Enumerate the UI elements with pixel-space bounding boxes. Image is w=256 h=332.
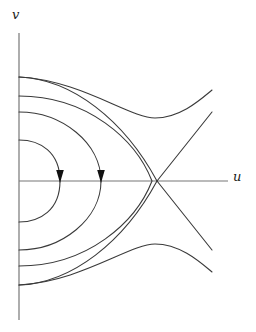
u-axis-label: u bbox=[233, 170, 241, 183]
trajectory-outer-orbit-lower bbox=[19, 244, 212, 285]
trajectory-separatrix-upper-right bbox=[157, 112, 212, 181]
trajectory-separatrix-lower-right bbox=[157, 181, 212, 250]
axes-group bbox=[19, 33, 228, 320]
phase-portrait-figure: v u bbox=[0, 0, 256, 332]
phase-portrait-canvas bbox=[0, 0, 256, 332]
trajectory-separatrix-upper-left bbox=[19, 77, 157, 181]
v-axis-label: v bbox=[12, 8, 19, 21]
trajectory-separatrix-lower-left bbox=[19, 181, 157, 285]
trajectory-outer-orbit-upper bbox=[19, 77, 212, 118]
